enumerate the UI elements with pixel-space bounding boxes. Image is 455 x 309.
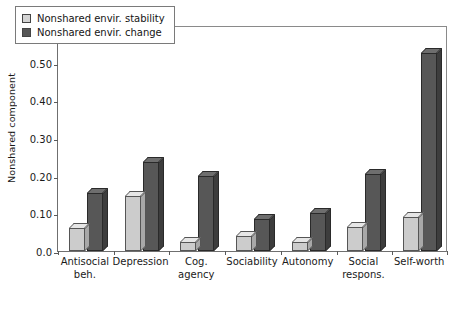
bar-face xyxy=(347,227,363,251)
bar xyxy=(347,227,363,251)
bar-side xyxy=(270,214,275,251)
bar-group xyxy=(125,27,159,251)
bar xyxy=(403,217,419,251)
x-axis-category-label-line: Cog. xyxy=(178,255,214,268)
y-axis-tick-label: 0.0 xyxy=(36,247,52,258)
y-axis-tick-label: 0.30 xyxy=(30,134,52,145)
legend-item: Nonshared envir. change xyxy=(22,25,165,39)
bar-side xyxy=(326,208,331,251)
y-axis-tick-mark xyxy=(54,215,58,216)
y-axis-tick-mark xyxy=(54,102,58,103)
bar-side xyxy=(437,48,442,251)
y-axis-tick-label: 0.40 xyxy=(30,96,52,107)
chart-figure: Nonshared component 0.00.100.200.300.400… xyxy=(0,0,455,309)
bar-face xyxy=(292,242,308,251)
bar-face xyxy=(69,228,85,251)
y-axis-tick-mark xyxy=(54,140,58,141)
bar xyxy=(69,228,85,251)
bar xyxy=(180,242,196,251)
x-axis-category-label-line: Social xyxy=(342,255,384,268)
bar-side xyxy=(381,169,386,251)
y-axis-tick-label: 0.20 xyxy=(30,171,52,182)
x-axis-category-label-line: Depression xyxy=(113,255,169,268)
bar xyxy=(292,242,308,251)
x-axis-category-label-line: Self-worth xyxy=(394,255,445,268)
plot-area xyxy=(57,26,447,252)
x-axis-category-label: Antisocialbeh. xyxy=(61,255,109,281)
bar-group xyxy=(180,27,214,251)
y-axis-tick-label: 0.10 xyxy=(30,209,52,220)
bar-face xyxy=(403,217,419,251)
bar-group xyxy=(236,27,270,251)
bar-side xyxy=(214,171,219,251)
bar-face xyxy=(125,196,141,251)
bar-face xyxy=(236,236,252,251)
bar-side xyxy=(141,191,146,251)
bar-side xyxy=(159,157,164,251)
x-axis-category-label-line: Antisocial xyxy=(61,255,109,268)
bar-side xyxy=(363,222,368,251)
bar-group xyxy=(69,27,103,251)
x-axis-category-label: Self-worth xyxy=(394,255,445,268)
bar-face xyxy=(180,242,196,251)
bar xyxy=(125,196,141,251)
x-axis-category-labels: Antisocialbeh.DepressionCog.agencySociab… xyxy=(57,255,447,305)
legend-swatch-icon xyxy=(22,14,31,23)
x-axis-tick-mark xyxy=(447,251,448,255)
y-axis-tick-label: 0.50 xyxy=(30,58,52,69)
legend-label: Nonshared envir. stability xyxy=(37,13,165,24)
bar-group xyxy=(292,27,326,251)
x-axis-category-label: Depression xyxy=(113,255,169,268)
x-axis-category-label: Sociability xyxy=(226,255,277,268)
plot-inner xyxy=(58,27,446,251)
bar-group xyxy=(347,27,381,251)
x-axis-category-label: Cog.agency xyxy=(178,255,214,281)
x-axis-category-label-line: Sociability xyxy=(226,255,277,268)
y-axis-tick-mark xyxy=(54,178,58,179)
legend: Nonshared envir. stabilityNonshared envi… xyxy=(15,6,175,44)
y-axis-title-text: Nonshared component xyxy=(6,73,17,183)
bar-side xyxy=(103,188,108,251)
y-axis-tick-mark xyxy=(54,65,58,66)
bar xyxy=(236,236,252,251)
bar-group xyxy=(403,27,437,251)
legend-swatch-icon xyxy=(22,28,31,37)
legend-item: Nonshared envir. stability xyxy=(22,11,165,25)
x-axis-category-label-line: agency xyxy=(178,268,214,281)
x-axis-category-label-line: Autonomy xyxy=(282,255,333,268)
x-axis-category-label-line: respons. xyxy=(342,268,384,281)
x-axis-category-label-line: beh. xyxy=(61,268,109,281)
x-axis-category-label: Autonomy xyxy=(282,255,333,268)
legend-label: Nonshared envir. change xyxy=(37,27,162,38)
bar-side xyxy=(419,212,424,251)
y-axis-tick-labels: 0.00.100.200.300.400.500.60 xyxy=(20,0,52,309)
x-axis-category-label: Socialrespons. xyxy=(342,255,384,281)
